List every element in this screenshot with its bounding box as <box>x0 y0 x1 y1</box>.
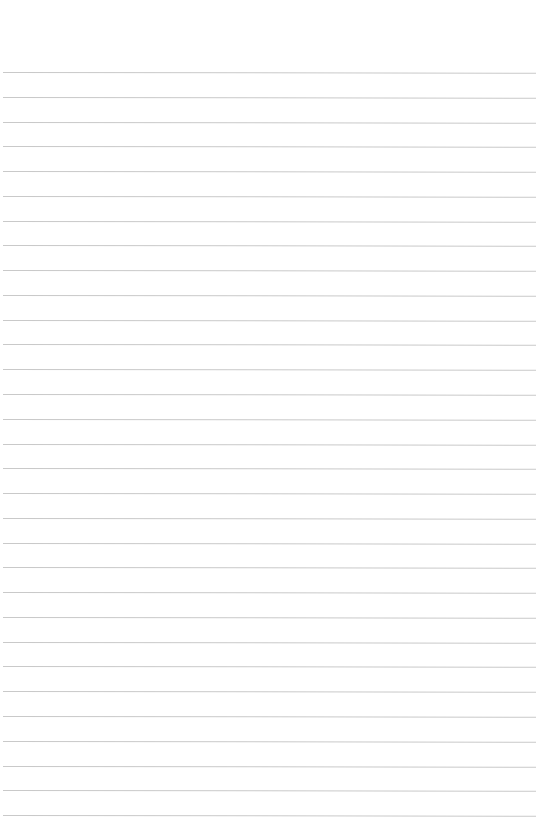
ruled-line <box>3 320 536 322</box>
ruled-line <box>3 419 536 421</box>
ruled-line <box>3 691 536 693</box>
lined-paper-page <box>0 0 536 835</box>
ruled-line <box>3 592 536 594</box>
ruled-line <box>3 146 536 148</box>
ruled-line <box>3 518 536 520</box>
ruled-line <box>3 716 536 718</box>
ruled-line <box>3 344 536 346</box>
ruled-line <box>3 72 536 74</box>
ruled-line <box>3 543 536 545</box>
ruled-line <box>3 567 536 569</box>
ruled-line <box>3 642 536 644</box>
ruled-line <box>3 444 536 446</box>
ruled-line <box>3 766 536 768</box>
ruled-line <box>3 790 536 792</box>
ruled-line <box>3 666 536 668</box>
ruled-line <box>3 468 536 470</box>
ruled-line <box>3 493 536 495</box>
ruled-line <box>3 295 536 297</box>
ruled-line <box>3 245 536 247</box>
ruled-line <box>3 369 536 371</box>
ruled-line <box>3 221 536 223</box>
ruled-line <box>3 741 536 743</box>
ruled-line <box>3 122 536 124</box>
ruled-line <box>3 394 536 396</box>
ruled-line <box>3 97 536 99</box>
ruled-line <box>3 171 536 173</box>
ruled-line <box>3 815 536 817</box>
ruled-line <box>3 270 536 272</box>
ruled-line <box>3 617 536 619</box>
ruled-line <box>3 196 536 198</box>
